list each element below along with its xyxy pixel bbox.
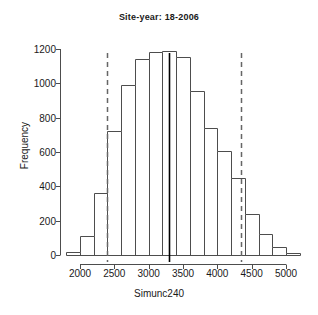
x-axis [80,265,287,270]
histogram-figure: Site-year: 18-2006 Frequency Simunc240 0… [0,0,318,315]
plot-canvas [0,0,318,315]
histogram-bars [67,52,301,256]
y-axis [56,49,61,256]
